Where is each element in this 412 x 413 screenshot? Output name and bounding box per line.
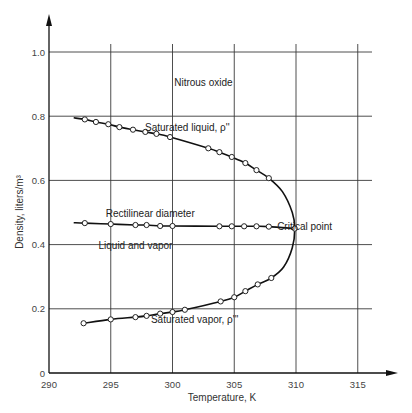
data-point (144, 313, 149, 318)
data-point (158, 223, 163, 228)
data-point (170, 223, 175, 228)
chart-title: Nitrous oxide (174, 77, 233, 88)
rectilinear-diameter-line (74, 223, 295, 229)
critical-point-label: Critical point (277, 221, 332, 232)
data-point (229, 224, 234, 229)
data-point (243, 160, 248, 165)
curves (74, 118, 295, 323)
data-point (217, 224, 222, 229)
data-point (269, 275, 274, 280)
y-tick-label: 0.4 (32, 239, 45, 250)
data-point (82, 220, 87, 225)
saturation-curve (74, 118, 295, 323)
x-tick-label: 295 (103, 379, 119, 390)
data-point (255, 282, 260, 287)
x-tick-label: 310 (288, 379, 304, 390)
data-point (229, 154, 234, 159)
data-point (217, 150, 222, 155)
tick-labels: 29029530030531031500.20.40.60.81.0 (32, 47, 366, 391)
density-chart: 29029530030531031500.20.40.60.81.0 Nitro… (0, 0, 412, 413)
saturated-vapor-label: Saturated vapor, ρ''' (151, 314, 239, 325)
liquid-vapor-region-label: Liquid and vapor (98, 240, 173, 251)
data-point (108, 317, 113, 322)
data-point (144, 222, 149, 227)
x-tick-label: 300 (165, 379, 181, 390)
x-tick-label: 315 (350, 379, 366, 390)
data-point (117, 125, 122, 130)
data-point (242, 224, 247, 229)
x-axis-label: Temperature, K (188, 392, 257, 403)
data-point (266, 176, 271, 181)
y-tick-label: 0.8 (32, 111, 45, 122)
data-point (206, 146, 211, 151)
data-point (82, 117, 87, 122)
x-tick-label: 305 (226, 379, 242, 390)
y-tick-label: 1.0 (32, 47, 45, 58)
saturated-liquid-label: Saturated liquid, ρ'' (145, 122, 230, 133)
data-point (81, 321, 86, 326)
data-point (254, 224, 259, 229)
data-point (167, 134, 172, 139)
data-points (81, 117, 297, 326)
data-point (232, 295, 237, 300)
y-axis-label: Density, liters/m³ (14, 174, 25, 248)
data-point (93, 119, 98, 124)
y-axis-arrow-icon (46, 14, 52, 26)
data-point (243, 289, 248, 294)
data-point (133, 315, 138, 320)
data-point (254, 168, 259, 173)
data-point (218, 299, 223, 304)
data-point (182, 307, 187, 312)
data-point (266, 224, 271, 229)
y-tick-label: 0 (40, 368, 45, 379)
data-point (108, 221, 113, 226)
x-tick-label: 290 (41, 379, 57, 390)
annotations: Nitrous oxideSaturated liquid, ρ''Rectil… (98, 77, 332, 326)
data-point (133, 222, 138, 227)
data-point (130, 127, 135, 132)
y-tick-label: 0.2 (32, 303, 45, 314)
x-axis-arrow-icon (386, 370, 398, 376)
rectilinear-diameter-label: Rectilinear diameter (106, 208, 196, 219)
data-point (106, 122, 111, 127)
y-tick-label: 0.6 (32, 175, 45, 186)
